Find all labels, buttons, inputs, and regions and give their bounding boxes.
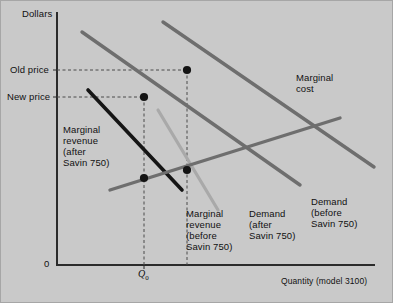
point-mr-after-mc-intersection — [140, 174, 148, 182]
curve-demand-before — [163, 22, 374, 167]
economics-chart-figure: Dollars Old price New price 0 Q0 Quantit… — [0, 0, 393, 303]
label-mr-after: Marginal revenue (after Savin 750) — [63, 124, 109, 168]
y-tick-label-old-price: Old price — [10, 64, 49, 75]
origin-label: 0 — [44, 258, 49, 269]
label-demand-before: Demand (before Savin 750) — [311, 196, 357, 229]
y-axis-title: Dollars — [22, 8, 52, 19]
label-mr-before: Marginal revenue (before Savin 750) — [186, 208, 232, 252]
label-demand-after: Demand (after Savin 750) — [249, 208, 295, 241]
chart-plot-area — [0, 0, 393, 303]
q0-subscript: 0 — [145, 274, 149, 282]
point-old-price — [183, 66, 191, 74]
x-axis-title: Quantity (model 3100) — [281, 276, 367, 287]
y-tick-label-new-price: New price — [7, 91, 50, 102]
x-tick-label-q0: Q0 — [138, 268, 149, 284]
point-new-price — [140, 93, 148, 101]
point-mr-before-mc-intersection — [183, 166, 191, 174]
label-marginal-cost: Marginal cost — [296, 72, 333, 94]
